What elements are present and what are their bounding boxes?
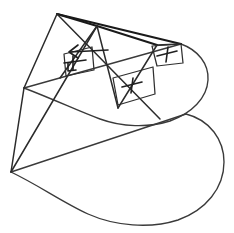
drawing-background (0, 0, 234, 233)
geometric-line-drawing (0, 0, 234, 233)
figure-root: Geometric line drawing of a pyramid-cone… (0, 0, 234, 233)
